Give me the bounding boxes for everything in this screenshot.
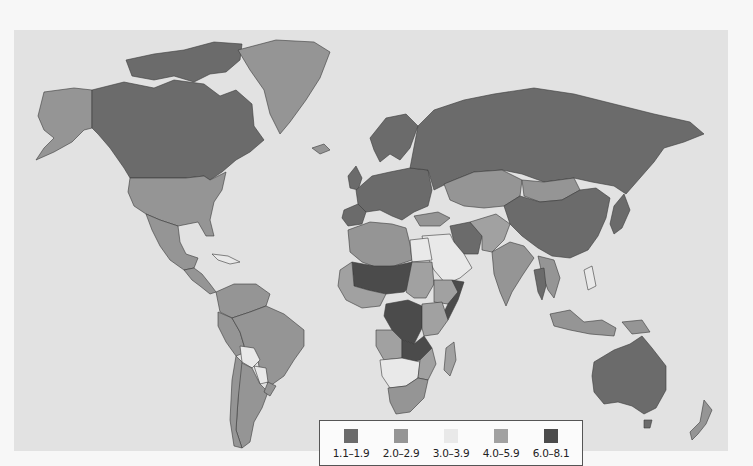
region-madagascar xyxy=(444,342,456,376)
region-north-africa xyxy=(348,222,412,268)
legend-swatch xyxy=(444,429,458,443)
region-central-america xyxy=(184,268,216,294)
region-papua xyxy=(622,320,650,334)
region-new-zealand xyxy=(690,400,712,440)
world-map xyxy=(14,30,728,451)
region-caribbean xyxy=(212,254,240,264)
region-philippines xyxy=(584,266,596,290)
legend-swatch xyxy=(394,429,408,443)
legend-item-2: 2.0–2.9 xyxy=(377,429,425,459)
region-scandinavia xyxy=(370,114,418,162)
legend-label: 3.0–3.9 xyxy=(433,447,470,459)
legend-label: 4.0–5.9 xyxy=(483,447,520,459)
map-legend: 1.1–1.9 2.0–2.9 3.0–3.9 4.0–5.9 6.0–8.1 xyxy=(319,420,583,466)
legend-swatch xyxy=(544,429,558,443)
region-russia xyxy=(410,88,704,194)
region-australia xyxy=(592,336,666,414)
legend-item-3: 3.0–3.9 xyxy=(427,429,475,459)
region-tasmania xyxy=(644,420,652,428)
legend-label: 2.0–2.9 xyxy=(383,447,420,459)
region-indonesia xyxy=(550,310,616,336)
region-canada xyxy=(92,80,264,180)
map-panel: 1.1–1.9 2.0–2.9 3.0–3.9 4.0–5.9 6.0–8.1 xyxy=(14,30,728,451)
legend-item-4: 4.0–5.9 xyxy=(477,429,525,459)
region-europe xyxy=(356,168,432,220)
legend-item-5: 6.0–8.1 xyxy=(527,429,575,459)
legend-label: 1.1–1.9 xyxy=(333,447,370,459)
region-alaska xyxy=(36,88,92,160)
region-japan xyxy=(610,194,630,234)
legend-swatch xyxy=(494,429,508,443)
region-iceland xyxy=(312,144,330,154)
legend-label: 6.0–8.1 xyxy=(533,447,570,459)
legend-item-1: 1.1–1.9 xyxy=(327,429,375,459)
region-egypt xyxy=(410,238,432,262)
region-turkey xyxy=(414,212,450,226)
legend-swatch xyxy=(344,429,358,443)
region-india xyxy=(492,242,534,306)
region-thailand xyxy=(534,268,546,300)
region-east-africa xyxy=(422,302,448,336)
region-canada-arctic xyxy=(126,42,242,82)
